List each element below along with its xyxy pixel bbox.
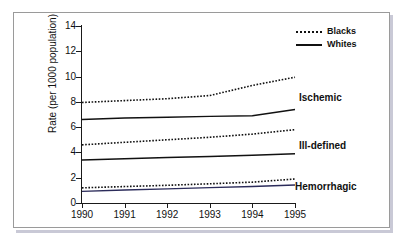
y-tick: [76, 51, 81, 52]
y-tick-label-text: 10: [36, 72, 76, 82]
series-lines: [82, 26, 295, 203]
y-tick-label-text: 4: [36, 147, 76, 157]
solid-line-icon: [296, 44, 322, 46]
series-line: [82, 77, 295, 102]
y-tick-label-text: 0: [36, 198, 76, 208]
y-tick-label: 8: [32, 97, 76, 107]
y-tick-label-text: 14: [36, 21, 76, 31]
y-tick-label-text: 6: [36, 122, 76, 132]
x-tick: [210, 203, 211, 208]
y-tick: [76, 152, 81, 153]
dotted-line-icon: [296, 31, 322, 33]
x-axis-line: [81, 203, 296, 204]
annotation-ischemic: Ischemic: [299, 92, 342, 103]
chart-figure: Rate (per 1000 population) 02468101214 1…: [0, 0, 405, 246]
y-tick: [76, 102, 81, 103]
y-tick: [76, 26, 81, 27]
y-tick: [76, 203, 81, 204]
y-tick-label-text: 2: [36, 173, 76, 183]
y-tick-label: 4: [32, 147, 76, 157]
x-tick: [82, 203, 83, 208]
y-tick-label: 6: [32, 122, 76, 132]
y-tick-label: 14: [32, 21, 76, 31]
frame-shadow-bottom: [16, 230, 393, 233]
plot-area: [82, 26, 295, 203]
x-tick-label: 1990: [62, 209, 102, 220]
y-tick: [76, 178, 81, 179]
x-tick: [295, 203, 296, 208]
annotation-ill-defined: Ill-defined: [299, 140, 346, 151]
chart-legend: Blacks Whites: [296, 24, 388, 50]
series-line: [82, 185, 295, 191]
legend-label-whites: Whites: [327, 39, 357, 49]
y-tick: [76, 127, 81, 128]
y-tick-label-text: 8: [36, 97, 76, 107]
legend-label-blacks: Blacks: [327, 26, 356, 36]
legend-item-blacks: Blacks: [296, 24, 388, 37]
y-tick-label: 10: [32, 72, 76, 82]
x-tick-label: 1994: [232, 209, 272, 220]
series-line: [82, 130, 295, 145]
legend-item-whites: Whites: [296, 37, 388, 50]
series-line: [82, 109, 295, 119]
x-tick: [252, 203, 253, 208]
x-tick: [125, 203, 126, 208]
y-tick-label: 0: [32, 198, 76, 208]
annotation-hemorrhagic: Hemorrhagic: [295, 181, 357, 192]
y-tick: [76, 77, 81, 78]
x-tick-label: 1991: [105, 209, 145, 220]
y-tick-label-text: 12: [36, 46, 76, 56]
x-tick-label: 1993: [190, 209, 230, 220]
y-tick-label: 12: [32, 46, 76, 56]
x-tick: [167, 203, 168, 208]
x-tick-label: 1995: [275, 209, 315, 220]
series-line: [82, 154, 295, 160]
y-tick-label: 2: [32, 173, 76, 183]
frame-shadow-right: [390, 15, 393, 233]
x-tick-label: 1992: [147, 209, 187, 220]
